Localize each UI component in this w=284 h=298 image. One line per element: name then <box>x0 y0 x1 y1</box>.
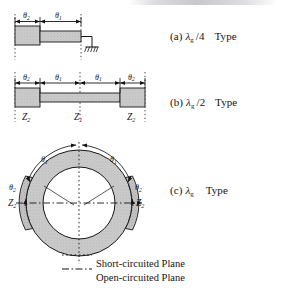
caption-panel-c: (c) λg Type <box>170 184 228 198</box>
label-theta2-a: θ2 <box>23 11 30 21</box>
caption-b-index: (b) <box>170 96 183 108</box>
caption-a-fraction: /4 <box>196 30 205 42</box>
caption-c-index: (c) <box>170 184 183 196</box>
caption-b-sub: g <box>191 102 195 110</box>
legend-open-label: Open-circuited Plane <box>96 272 185 283</box>
section-z1-a <box>40 31 81 42</box>
legend-swatches <box>62 255 92 269</box>
ground-symbol-a <box>85 47 99 52</box>
panel-b-geometry: θ2 θ1 θ1 θ2 Z2 Z1 Z2 <box>15 72 145 123</box>
caption-b-type: Type <box>215 96 237 108</box>
label-z2-b-left: Z2 <box>22 112 30 123</box>
caption-a-index: (a) <box>170 30 183 42</box>
caption-panel-b: (b) λg/2 Type <box>170 96 237 110</box>
label-z2-b-right: Z2 <box>127 112 135 123</box>
section-z2-a <box>15 26 40 45</box>
caption-c-type: Type <box>206 184 228 196</box>
label-theta2-c-left: θ2 <box>9 183 16 193</box>
label-theta1-a: θ1 <box>55 11 62 21</box>
label-theta1-b-right: θ1 <box>95 73 102 83</box>
section-z2-b-left <box>15 88 40 107</box>
label-z2-c-right: Z2 <box>136 198 144 209</box>
panel-c-ring-geometry: θ1 θ1 θ2 θ2 Z2 Z2 <box>8 142 144 264</box>
caption-b-fraction: /2 <box>196 96 205 108</box>
label-theta2-c-right: θ2 <box>135 183 142 193</box>
caption-a-type: Type <box>214 30 236 42</box>
label-z2-c-left: Z2 <box>8 198 16 209</box>
label-theta2-b-left: θ2 <box>23 73 30 83</box>
caption-a-sub: g <box>190 36 194 44</box>
caption-c-sub: g <box>190 190 194 198</box>
label-z1-b: Z1 <box>74 112 82 123</box>
caption-panel-a: (a) λg/4 Type <box>170 30 237 44</box>
panel-a-geometry: θ2 θ1 <box>15 11 99 60</box>
label-theta1-c-right: θ1 <box>110 155 117 165</box>
section-z1-b <box>40 93 120 102</box>
legend-short-label: Short-circuited Plane <box>96 258 185 269</box>
label-theta1-b-left: θ1 <box>55 73 62 83</box>
ground-lead-a <box>81 37 92 48</box>
label-theta2-b-right: θ2 <box>128 73 135 83</box>
section-z2-b-right <box>120 88 145 107</box>
panel-a-quarter-wave: θ2 θ1 θ2 θ1 θ1 θ2 Z2 Z1 Z2 <box>0 0 284 298</box>
